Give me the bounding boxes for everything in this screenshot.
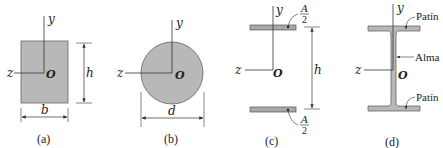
rectangular-section [21, 41, 68, 103]
panel-a-rectangle: y z O h b (a) [6, 12, 94, 146]
top-area-leader-dot [287, 26, 289, 28]
z-axis-label: z [354, 63, 362, 77]
origin-label: O [398, 69, 408, 82]
top-area-denominator: 2 [302, 14, 307, 25]
panel-b-circle: y z O d (b) [116, 16, 204, 146]
z-axis-label: z [234, 63, 242, 77]
top-flange-label: Patín [416, 10, 439, 22]
y-axis-label: y [47, 12, 55, 26]
web-label: Alma [415, 51, 440, 63]
z-axis-label: z [116, 66, 124, 80]
bottom-area-numerator: A [300, 114, 308, 125]
b-label: b [41, 103, 49, 117]
y-axis-label: y [175, 16, 183, 30]
origin-label: O [46, 68, 56, 81]
h-label: h [86, 66, 94, 80]
z-axis-label: z [6, 66, 14, 80]
panel-d-ibeam: y z O Patín Alma Patín (d) [354, 1, 440, 148]
y-axis-label: y [396, 1, 404, 15]
origin-label: O [273, 67, 283, 80]
caption-a: (a) [37, 132, 50, 146]
h-label: h [314, 63, 322, 77]
panel-c-idealized: y z O A 2 A 2 h (c) [234, 3, 322, 148]
origin-label: O [175, 69, 185, 82]
d-label: d [168, 104, 176, 118]
top-area-numerator: A [300, 3, 308, 14]
bottom-area-denominator: 2 [302, 125, 307, 136]
caption-d: (d) [385, 135, 399, 148]
bottom-area [250, 107, 296, 112]
bottom-flange-label: Patín [416, 91, 439, 103]
bottom-area-leader-dot [287, 109, 289, 111]
caption-c: (c) [265, 134, 278, 148]
cross-sections-diagram: y z O h b (a) y z O d (b) y z O [0, 0, 443, 148]
caption-b: (b) [164, 132, 178, 146]
y-axis-label: y [275, 3, 283, 17]
ibeam-section [368, 26, 420, 111]
